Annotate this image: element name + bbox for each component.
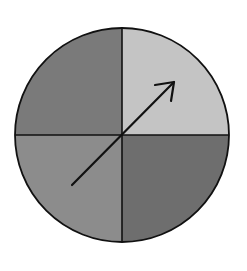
spinner-diagram (0, 0, 247, 271)
section-top-left (0, 0, 122, 135)
spinner-svg (0, 0, 247, 271)
section-bottom-left (0, 135, 122, 271)
section-bottom-right (122, 135, 247, 271)
